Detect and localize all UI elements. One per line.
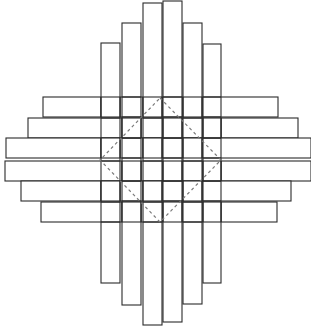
weave-illustration [0, 0, 311, 326]
crossing-h-over [183, 181, 202, 201]
crossing-h-over [203, 118, 221, 138]
crossing-h-over [183, 97, 202, 117]
crossing-h-over [183, 138, 202, 158]
crossing-h-over [163, 118, 182, 138]
crossing-h-over [143, 138, 162, 158]
vertical-strip-5 [183, 23, 202, 304]
crossing-h-over [143, 97, 162, 117]
crossing-h-over [101, 181, 120, 201]
crossing-h-over [203, 202, 221, 222]
crossing-h-over [101, 97, 120, 117]
crossing-h-over [143, 181, 162, 201]
crossing-h-over [122, 202, 141, 222]
crossing-h-over [203, 161, 221, 181]
crossing-h-over [122, 161, 141, 181]
crossing-h-over [101, 138, 120, 158]
crossing-h-over [163, 202, 182, 222]
vertical-strip-1 [101, 43, 120, 283]
vertical-strip-3 [143, 3, 162, 325]
basket-weave-diagram [0, 0, 311, 326]
crossing-h-over [163, 161, 182, 181]
